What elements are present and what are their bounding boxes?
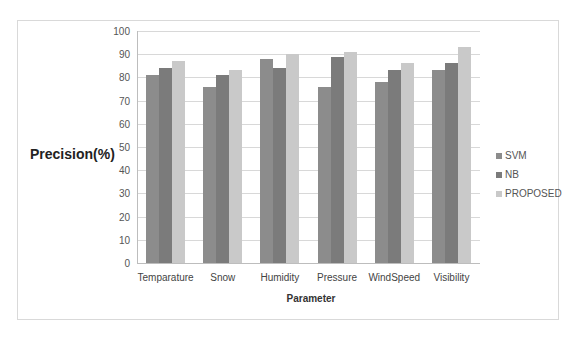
y-tick-label: 100 (100, 26, 130, 37)
gridline (137, 170, 480, 171)
y-tick-label: 50 (100, 142, 130, 153)
bar-svm-windspeed (375, 82, 388, 263)
gridline (137, 31, 480, 32)
bar-nb-humidity (273, 68, 286, 263)
bar-nb-visibility (445, 63, 458, 263)
bar-nb-temparature (159, 68, 172, 263)
x-tick-label: Humidity (250, 272, 310, 283)
legend-item-nb: NB (496, 165, 562, 184)
y-tick-label: 20 (100, 211, 130, 222)
bar-proposed-humidity (286, 54, 299, 263)
bar-nb-snow (216, 75, 229, 263)
legend-swatch-icon (496, 153, 502, 159)
legend-label: NB (505, 169, 519, 180)
bar-svm-visibility (432, 70, 445, 263)
y-tick-label: 90 (100, 49, 130, 60)
x-tick-label: Snow (193, 272, 253, 283)
legend-label: SVM (505, 150, 527, 161)
x-axis-label: Parameter (281, 293, 341, 304)
y-tick-label: 0 (100, 258, 130, 269)
gridline (137, 217, 480, 218)
bar-svm-humidity (260, 59, 273, 263)
bar-svm-snow (203, 87, 216, 263)
x-tick-label: WindSpeed (364, 272, 424, 283)
bar-proposed-snow (229, 70, 242, 263)
x-tick-label: Visibility (421, 272, 481, 283)
legend-swatch-icon (496, 172, 502, 178)
bar-proposed-windspeed (401, 63, 414, 263)
y-tick-label: 30 (100, 188, 130, 199)
bar-nb-windspeed (388, 70, 401, 263)
gridline (137, 147, 480, 148)
x-tick-label: Temparature (136, 272, 196, 283)
bar-proposed-temparature (172, 61, 185, 263)
gridline (137, 240, 480, 241)
legend-item-svm: SVM (496, 146, 562, 165)
x-tick-label: Pressure (307, 272, 367, 283)
bar-proposed-pressure (344, 52, 357, 263)
x-axis-line (137, 263, 480, 264)
gridline (137, 101, 480, 102)
bar-svm-pressure (318, 87, 331, 263)
legend-label: PROPOSED (505, 188, 562, 199)
y-tick-label: 60 (100, 118, 130, 129)
y-tick-label: 80 (100, 72, 130, 83)
legend-item-proposed: PROPOSED (496, 184, 562, 203)
bar-proposed-visibility (458, 47, 471, 263)
gridline (137, 124, 480, 125)
y-tick-label: 40 (100, 165, 130, 176)
legend-swatch-icon (496, 191, 502, 197)
gridline (137, 54, 480, 55)
y-axis-line (137, 31, 138, 264)
legend: SVMNBPROPOSED (496, 146, 562, 203)
y-tick-label: 70 (100, 95, 130, 106)
gridline (137, 77, 480, 78)
bar-svm-temparature (146, 75, 159, 263)
bar-nb-pressure (331, 57, 344, 263)
gridline (137, 193, 480, 194)
y-tick-label: 10 (100, 234, 130, 245)
plot-area (137, 31, 480, 263)
